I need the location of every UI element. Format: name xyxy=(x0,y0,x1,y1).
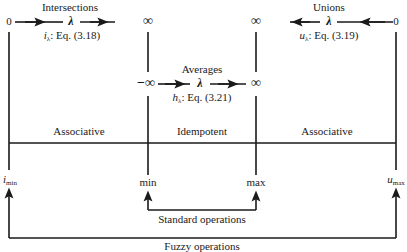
averages-end: ∞ xyxy=(251,76,261,90)
unions-lambda: λ xyxy=(326,15,331,27)
averages-title: Averages xyxy=(182,64,223,75)
unions-start: 0 xyxy=(393,16,399,27)
region-associative-right: Associative xyxy=(301,126,352,137)
intersections-lambda: λ xyxy=(68,15,73,27)
label-min: min xyxy=(139,177,156,188)
unions-end: ∞ xyxy=(251,14,261,28)
region-associative-left: Associative xyxy=(53,126,104,137)
unions-equation: uλ: Eq. (3.19) xyxy=(299,30,358,43)
unions-title: Unions xyxy=(313,2,345,13)
label-u-max: umax xyxy=(387,174,405,187)
intersections-end: ∞ xyxy=(143,14,153,28)
label-max: max xyxy=(247,177,266,188)
intersections-start: 0 xyxy=(6,16,12,27)
region-idempotent: Idempotent xyxy=(177,126,227,137)
outer-bracket-label: Fuzzy operations xyxy=(164,241,239,252)
intersections-equation: iλ: Eq. (3.18) xyxy=(44,30,101,43)
averages-equation: hλ: Eq. (3.21) xyxy=(172,92,231,105)
averages-start: −∞ xyxy=(137,76,155,90)
standard-operations-label: Standard operations xyxy=(158,214,246,225)
intersections-title: Intersections xyxy=(42,2,98,13)
label-i-min: imin xyxy=(3,174,17,187)
averages-lambda: λ xyxy=(197,77,202,89)
